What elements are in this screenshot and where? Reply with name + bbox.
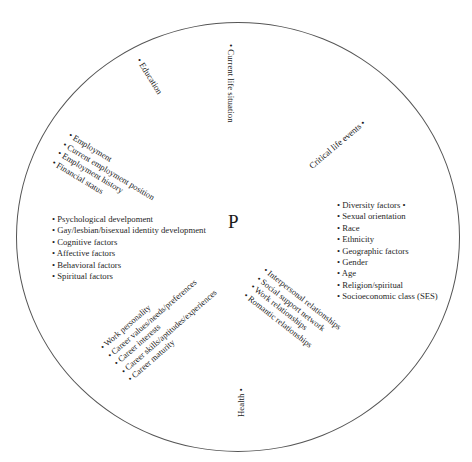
current-life-situation-label: • Current life situation	[226, 44, 236, 123]
list-item: • Geographic factors	[337, 246, 472, 257]
sector-label-health: Health •	[236, 388, 246, 417]
list-item: • Affective factors	[52, 248, 212, 259]
list-item: • Age	[337, 268, 472, 279]
list-item: • Psychological develpoment	[52, 214, 212, 225]
center-label-p: P	[228, 212, 239, 231]
sector-label-current-life-situation: • Current life situation	[226, 44, 236, 123]
list-item: • Gay/lesbian/bisexual identity developm…	[52, 225, 212, 236]
list-item: • Socioeconomic class (SES)	[337, 291, 472, 302]
diagram-canvas: P • Education • Current life situation C…	[0, 0, 472, 462]
list-item: • Gender	[337, 257, 472, 268]
list-item: • Sexual orientation	[337, 211, 472, 222]
list-item: • Cognitive factors	[52, 237, 212, 248]
health-label: Health •	[236, 388, 246, 417]
sector-group-diversity-factors: • Diversity factors • • Sexual orientati…	[337, 200, 472, 303]
list-item: • Diversity factors •	[337, 200, 472, 211]
list-item: • Religion/spiritual	[337, 280, 472, 291]
list-item: • Race	[337, 223, 472, 234]
list-item: • Ethnicity	[337, 234, 472, 245]
